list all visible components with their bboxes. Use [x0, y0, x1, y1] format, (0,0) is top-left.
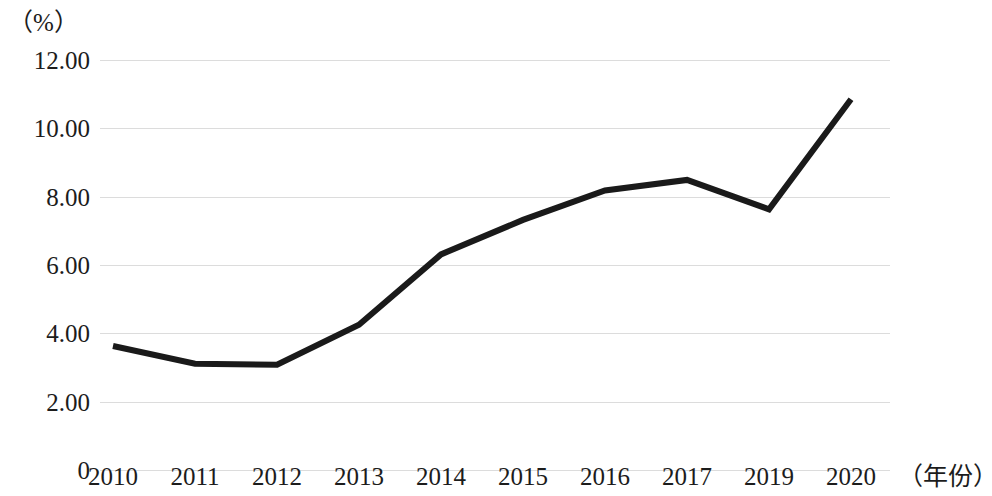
- plot-area: [100, 60, 890, 470]
- y-axis-tick-label: 12.00: [0, 48, 90, 73]
- line-chart: （%） 02.004.006.008.0010.0012.00 20102011…: [0, 0, 992, 496]
- y-axis-tick-label: 2.00: [0, 390, 90, 415]
- x-axis-name-label: （年份）: [898, 462, 992, 492]
- y-axis-tick-label-group: 02.004.006.008.0010.0012.00: [0, 60, 90, 470]
- x-axis-tick-label-group: 2010201120122013201420152016201720192020: [100, 462, 890, 496]
- y-axis-tick-label: 8.00: [0, 185, 90, 210]
- x-axis-tick-label: 2020: [796, 462, 906, 492]
- y-axis-tick-label: 10.00: [0, 116, 90, 141]
- y-axis-unit-label: （%）: [8, 8, 79, 38]
- y-axis-tick-label: 4.00: [0, 321, 90, 346]
- y-axis-tick-label: 6.00: [0, 253, 90, 278]
- series-line: [113, 99, 851, 364]
- series-line-group: [100, 60, 890, 470]
